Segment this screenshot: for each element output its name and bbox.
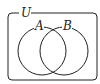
- set-a-circle: [18, 27, 66, 75]
- universe-rectangle: [8, 13, 97, 80]
- universe-label: U: [21, 6, 32, 20]
- set-a-label: A: [34, 19, 44, 33]
- set-b-label: B: [62, 19, 72, 33]
- set-b-circle: [40, 27, 88, 75]
- venn-diagram: U A B: [0, 0, 100, 84]
